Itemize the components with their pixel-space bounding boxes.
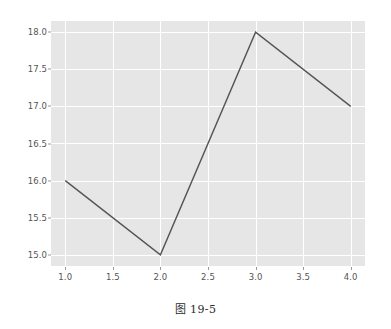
x-tick-label: 3.0	[236, 273, 276, 282]
x-tick-label: 1.5	[93, 273, 133, 282]
figure-caption: 图 19-5	[0, 300, 391, 316]
x-axis-tick-labels: 1.01.52.02.53.03.54.0	[0, 0, 391, 329]
x-tick-mark	[65, 267, 66, 270]
x-tick-label: 4.0	[331, 273, 371, 282]
x-tick-label: 2.5	[188, 273, 228, 282]
x-tick-label: 3.5	[283, 273, 323, 282]
x-tick-mark	[351, 267, 352, 270]
x-tick-label: 2.0	[140, 273, 180, 282]
x-tick-mark	[113, 267, 114, 270]
x-tick-mark	[256, 267, 257, 270]
x-tick-label: 1.0	[45, 273, 85, 282]
x-tick-mark	[160, 267, 161, 270]
x-tick-mark	[303, 267, 304, 270]
x-tick-mark	[208, 267, 209, 270]
figure-canvas: 15.015.516.016.517.017.518.0 1.01.52.02.…	[0, 0, 391, 329]
